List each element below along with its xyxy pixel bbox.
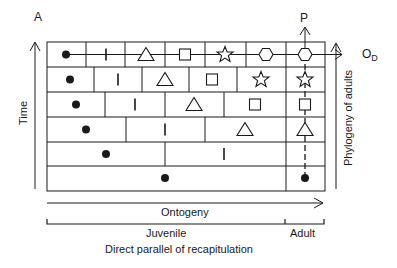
square-icon [300,99,311,110]
square-icon [180,49,191,60]
dot-icon [66,76,74,84]
descendant-ontogeny-letter: O [362,47,371,61]
row-5-symbols [102,148,224,160]
star-icon [217,47,233,62]
triangle-icon [186,98,202,111]
row-3-symbols [72,98,311,111]
recapitulation-diagram [0,0,397,268]
life-stage-bracket [47,219,324,224]
dot-icon [72,101,80,109]
phylogeny-axis-label: Phylogeny of adults [342,70,354,166]
dot-icon [301,174,309,182]
dot-icon [82,126,90,134]
grid [47,42,325,191]
dot-icon [161,174,169,182]
row-6-symbols [161,174,309,182]
dot-icon [102,150,110,158]
square-icon [250,99,261,110]
adult-label: Adult [290,227,315,239]
hexagon-icon [298,49,312,61]
row-4-symbols [82,123,313,136]
ontogeny-axis-label: Ontogeny [161,206,209,218]
descendant-ontogeny-label: OD [362,47,378,63]
square-icon [207,74,218,85]
time-axis-label: Time [17,101,29,125]
phylogeny-axis-arrow [331,43,341,189]
triangle-icon [237,123,253,136]
juvenile-label: Juvenile [146,227,186,239]
descendant-subscript: D [371,53,378,63]
dot-icon [62,51,70,59]
star-icon [253,72,269,87]
caption: Direct parallel of recapitulation [105,243,253,255]
phylogeny-top-label: P [300,11,308,25]
triangle-icon [297,123,313,136]
hexagon-icon [259,49,273,61]
corner-label: A [34,10,42,24]
triangle-icon [157,73,173,86]
time-axis-arrow [30,42,40,189]
